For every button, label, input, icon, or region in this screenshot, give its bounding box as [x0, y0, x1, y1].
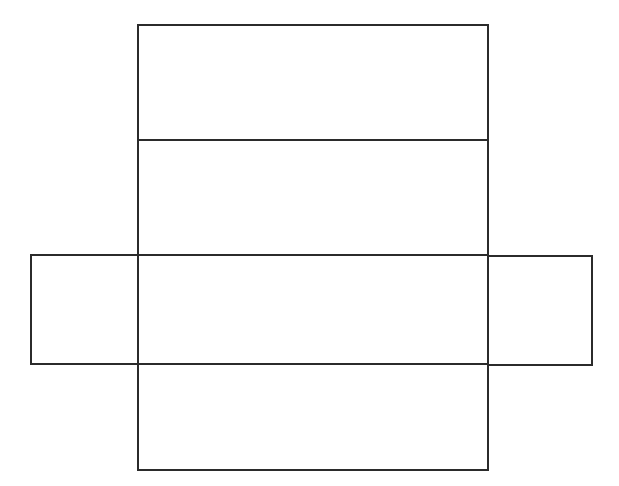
net-face-left [31, 255, 138, 364]
net-face-right [488, 256, 592, 365]
net-face-top [138, 25, 488, 140]
net-face-back [138, 140, 488, 255]
net-face-front [138, 364, 488, 470]
net-face-base [138, 255, 488, 364]
prism-net-diagram [0, 0, 619, 486]
